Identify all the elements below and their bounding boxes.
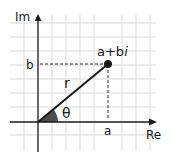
real-axis-label: Re [146, 128, 161, 142]
imag-value-label: b [26, 58, 34, 72]
point-label-italic: i [124, 44, 128, 59]
imaginary-axis-label: Im [15, 10, 30, 24]
complex-plane-diagram: Im Re a+bi b a r θ [0, 0, 173, 157]
grid [10, 15, 156, 150]
angle-label: θ [62, 105, 71, 121]
point-label: a+bi [97, 44, 128, 59]
complex-point [104, 60, 112, 68]
real-axis-arrow-icon [149, 119, 157, 126]
real-value-label: a [104, 124, 111, 138]
modulus-label: r [64, 75, 70, 91]
imaginary-axis-arrow-icon [35, 14, 42, 21]
point-label-main: a+b [97, 44, 124, 59]
